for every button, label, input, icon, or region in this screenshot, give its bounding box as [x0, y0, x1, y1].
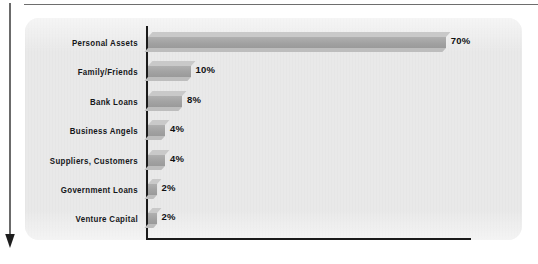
bar-row: Family/Friends10%	[25, 61, 522, 91]
bar-value-label: 4%	[170, 122, 184, 135]
bar-row: Government Loans2%	[25, 179, 522, 209]
bar-row: Bank Loans8%	[25, 91, 522, 121]
bar-value-label: 10%	[196, 63, 216, 76]
downward-flow-arrow-icon	[3, 3, 23, 251]
bar-bottom-face	[144, 48, 445, 52]
bar-front-face	[148, 155, 165, 166]
screenshot-root: Personal Assets70%Family/Friends10%Bank …	[0, 0, 538, 264]
bar-value-label: 70%	[451, 34, 471, 47]
bar-bottom-face	[144, 107, 182, 111]
bar	[148, 179, 157, 199]
top-divider-rule	[24, 4, 538, 5]
bar-category-label: Business Angels	[33, 123, 138, 139]
bar-chart-plot: Personal Assets70%Family/Friends10%Bank …	[25, 18, 522, 240]
bar	[148, 32, 446, 52]
bar-front-face	[148, 184, 157, 195]
bar-category-label: Suppliers, Customers	[33, 153, 138, 169]
bar-value-label: 2%	[162, 210, 176, 223]
bar	[148, 120, 165, 140]
bar-category-label: Personal Assets	[33, 35, 138, 51]
bar	[148, 91, 182, 111]
chart-panel: Personal Assets70%Family/Friends10%Bank …	[25, 18, 522, 240]
bar-row: Suppliers, Customers4%	[25, 150, 522, 180]
bar-bottom-face	[144, 195, 156, 199]
bar	[148, 208, 157, 228]
bar-value-label: 4%	[170, 152, 184, 165]
bar-front-face	[148, 37, 446, 48]
bar-category-label: Bank Loans	[33, 94, 138, 110]
bar-category-label: Venture Capital	[33, 211, 138, 227]
bar-value-label: 8%	[187, 93, 201, 106]
bar-front-face	[148, 213, 157, 224]
bar-bottom-face	[144, 77, 190, 81]
bar-category-label: Government Loans	[33, 182, 138, 198]
bar-bottom-face	[144, 136, 165, 140]
bar-bottom-face	[144, 166, 165, 170]
bar	[148, 150, 165, 170]
bar-row: Personal Assets70%	[25, 32, 522, 62]
bar	[148, 61, 191, 81]
bar-front-face	[148, 66, 191, 77]
bar-category-label: Family/Friends	[33, 64, 138, 80]
bar-value-label: 2%	[162, 181, 176, 194]
bar-front-face	[148, 96, 182, 107]
bar-row: Venture Capital2%	[25, 208, 522, 238]
bar-front-face	[148, 125, 165, 136]
bar-bottom-face	[144, 224, 156, 228]
bar-row: Business Angels4%	[25, 120, 522, 150]
